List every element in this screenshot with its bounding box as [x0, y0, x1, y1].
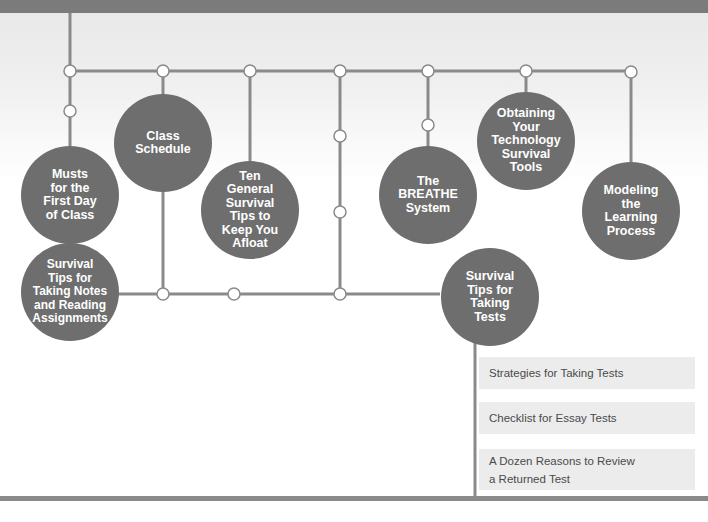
- junction-node: [64, 105, 76, 117]
- node-taking-tests: Survival Tips for Taking Tests: [441, 248, 539, 346]
- junction-node: [228, 288, 240, 300]
- node-breathe-system: The BREATHE System: [379, 146, 477, 244]
- junction-node: [422, 119, 434, 131]
- junction-node: [520, 65, 532, 77]
- junction-node: [334, 206, 346, 218]
- junction-node: [334, 65, 346, 77]
- test-item-strategies: Strategies for Taking Tests: [479, 357, 695, 389]
- node-label: Survival Tips for Taking Tests: [466, 270, 515, 324]
- node-label: Class Schedule: [135, 130, 191, 157]
- junction-node: [64, 65, 76, 77]
- test-item-label: Strategies for Taking Tests: [489, 364, 623, 382]
- node-label: The BREATHE System: [398, 175, 458, 216]
- node-label: Modeling the Learning Process: [604, 184, 659, 238]
- node-modeling-learning: Modeling the Learning Process: [582, 162, 680, 260]
- node-technology-tools: Obtaining Your Technology Survival Tools: [477, 92, 575, 190]
- junction-node: [157, 288, 169, 300]
- junction-node: [157, 65, 169, 77]
- junction-node: [334, 130, 346, 142]
- test-item-label: Checklist for Essay Tests: [489, 409, 617, 427]
- junction-node: [244, 65, 256, 77]
- node-taking-notes: Survival Tips for Taking Notes and Readi…: [21, 243, 119, 341]
- test-item-essay-checklist: Checklist for Essay Tests: [479, 402, 695, 434]
- test-item-review-returned: A Dozen Reasons to Review a Returned Tes…: [479, 449, 695, 490]
- junction-node: [334, 288, 346, 300]
- node-label: Ten General Survival Tips to Keep You Af…: [222, 170, 279, 251]
- node-class-schedule: Class Schedule: [114, 94, 212, 192]
- junction-node: [625, 66, 637, 78]
- bottom-bar: [0, 496, 708, 501]
- junction-node: [422, 65, 434, 77]
- node-label: Obtaining Your Technology Survival Tools: [491, 107, 560, 175]
- node-label: Musts for the First Day of Class: [43, 168, 97, 222]
- test-item-label: A Dozen Reasons to Review a Returned Tes…: [489, 452, 635, 488]
- node-label: Survival Tips for Taking Notes and Readi…: [32, 258, 107, 326]
- node-musts-first-day: Musts for the First Day of Class: [21, 146, 119, 244]
- node-ten-survival-tips: Ten General Survival Tips to Keep You Af…: [201, 161, 299, 259]
